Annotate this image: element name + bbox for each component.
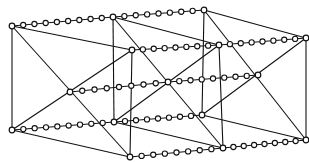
bead-icon — [262, 141, 267, 146]
node-F — [303, 35, 309, 41]
bead-icon — [104, 86, 109, 91]
frame-edges — [12, 10, 306, 157]
bead-icon — [293, 36, 298, 41]
bead-icon — [199, 77, 204, 82]
bead-icon — [133, 118, 138, 123]
node-N — [220, 145, 226, 151]
frame-edge-CF — [204, 10, 306, 38]
bead-icon — [54, 19, 59, 24]
bead-icon — [282, 37, 287, 42]
bead-icon — [173, 45, 178, 50]
bead-icon — [233, 74, 238, 79]
bead-icon — [133, 13, 138, 18]
bead-icon — [92, 87, 97, 92]
bead-icon — [77, 17, 82, 22]
bead-icon — [116, 84, 121, 89]
bead-icon — [231, 144, 236, 149]
node-B — [110, 14, 116, 20]
bead-icon — [155, 116, 160, 121]
bead-icon — [177, 79, 182, 84]
bead-icon — [100, 120, 105, 125]
bead-icon — [89, 121, 94, 126]
bead-icon — [177, 114, 182, 119]
bead-icon — [244, 73, 249, 78]
bead-icon — [271, 38, 276, 43]
bead-icon — [162, 151, 167, 156]
node-G — [67, 89, 73, 95]
bead-icon — [122, 14, 127, 19]
bead-icon — [188, 113, 193, 118]
node-C — [201, 7, 207, 13]
bead-icon — [188, 78, 193, 83]
frame-nodes — [9, 7, 309, 160]
bead-icon — [55, 124, 60, 129]
bead-icon — [197, 148, 202, 153]
bead-icon — [156, 11, 161, 16]
frame-edge-DM — [130, 50, 132, 157]
bead-icon — [195, 44, 200, 49]
frame-edge-LO — [202, 115, 306, 140]
bead-icon — [174, 150, 179, 155]
bead-icon — [241, 143, 246, 148]
bead-icon — [139, 153, 144, 158]
bead-icon — [43, 125, 48, 130]
bead-icon — [32, 126, 37, 131]
bead-icon — [122, 119, 127, 124]
node-M — [127, 154, 133, 160]
bead-icon — [66, 18, 71, 23]
frame-edge-JM — [12, 130, 130, 157]
bead-icon — [184, 44, 189, 49]
node-K — [111, 119, 117, 125]
node-A — [9, 23, 15, 29]
bead-frame-diagram — [0, 0, 309, 162]
node-O — [303, 137, 309, 143]
bead-icon — [21, 22, 26, 27]
bead-icon — [21, 127, 26, 132]
bead-icon — [260, 39, 265, 44]
node-L — [199, 112, 205, 118]
diagram-canvas — [0, 0, 309, 162]
bead-icon — [283, 139, 288, 144]
bead-icon — [227, 42, 232, 47]
bead-icon — [222, 75, 227, 80]
bead-icon — [145, 12, 150, 17]
bead-icon — [166, 115, 171, 120]
bead-icon — [151, 152, 156, 157]
bead-icon — [249, 40, 254, 45]
bead-icon — [151, 46, 156, 51]
bead-icon — [238, 41, 243, 46]
bead-icon — [88, 16, 93, 21]
frame-edge-CL — [202, 10, 204, 115]
bead-icon — [190, 8, 195, 13]
chain-line-JK — [12, 122, 114, 130]
bead-icon — [32, 21, 37, 26]
frame-edge-BK — [113, 17, 114, 122]
node-J — [9, 127, 15, 133]
bead-icon — [162, 46, 167, 51]
bead-icon — [99, 15, 104, 20]
bead-icon — [129, 83, 134, 88]
bead-icon — [144, 117, 149, 122]
bead-icon — [206, 43, 211, 48]
node-I — [255, 72, 261, 78]
frame-edge-EN — [219, 45, 223, 148]
bead-icon — [80, 88, 85, 93]
bead-icon — [272, 140, 277, 145]
bead-icon — [210, 76, 215, 81]
node-D — [129, 47, 135, 53]
bead-icon — [77, 122, 82, 127]
bead-icon — [140, 47, 145, 52]
frame-edge-LF — [202, 38, 306, 115]
node-E — [216, 42, 222, 48]
chain-line-AB — [12, 17, 113, 26]
bead-icon — [252, 142, 257, 147]
bead-icon — [167, 10, 172, 15]
bead-icon — [141, 82, 146, 87]
bead-icon — [179, 9, 184, 14]
bead-icon — [66, 123, 71, 128]
bead-icon — [293, 138, 298, 143]
node-H — [165, 79, 171, 85]
bead-icon — [186, 149, 191, 154]
bead-icon — [209, 147, 214, 152]
bead-icon — [43, 20, 48, 25]
